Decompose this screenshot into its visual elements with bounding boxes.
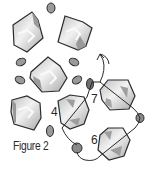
crystal-center <box>30 57 67 92</box>
seed-bead-top <box>47 3 55 13</box>
crystal-top-left <box>13 12 43 52</box>
step-label-7: 7 <box>91 92 98 106</box>
crystal-bottom-left <box>11 96 41 130</box>
crystal-step-6 <box>98 128 130 160</box>
seed-bead <box>47 126 54 137</box>
step-label-6: 6 <box>91 133 98 147</box>
seed-bead <box>15 57 27 68</box>
step-label-4: 4 <box>51 105 58 119</box>
seed-bead <box>14 75 26 86</box>
crystal-top-right <box>58 16 92 50</box>
seed-bead <box>68 57 80 68</box>
seed-bead <box>71 74 83 85</box>
figure-caption: Figure 2 <box>13 139 48 153</box>
